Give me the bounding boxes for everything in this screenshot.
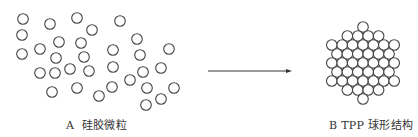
particle-circle: [65, 64, 76, 75]
packed-particle-circle: [342, 85, 353, 96]
particle-circle: [84, 66, 95, 77]
particle-circle: [132, 34, 143, 45]
particle-circle: [47, 87, 58, 98]
particle-circle: [164, 44, 175, 55]
particle-circle: [17, 30, 28, 41]
particle-circle: [156, 63, 167, 74]
particle-circle: [35, 68, 46, 79]
panel-b-caption: B TPP 球形结构: [329, 116, 413, 132]
particle-circle: [142, 83, 153, 94]
packed-particle-circle: [389, 76, 400, 87]
particle-circle: [87, 25, 98, 36]
particle-circle: [138, 67, 149, 78]
arrow-head-icon: [286, 69, 292, 73]
particle-circle: [72, 13, 83, 24]
tpp-spherical-cluster: [327, 22, 400, 105]
particle-circle: [115, 16, 126, 27]
transformation-arrow: [208, 69, 292, 73]
packed-particle-circle: [358, 94, 369, 105]
particle-circle: [135, 50, 146, 61]
silica-particles-scattered: [17, 13, 180, 111]
particle-circle: [51, 53, 62, 64]
particle-circle: [156, 94, 167, 105]
particle-circle: [94, 91, 105, 102]
particle-circle: [141, 100, 152, 111]
panel-a-caption: A 硅胶微粒: [66, 116, 127, 132]
particle-circle: [125, 75, 136, 86]
particle-circle: [76, 38, 87, 49]
particle-circle: [72, 83, 83, 94]
particle-circle: [35, 44, 46, 55]
particle-circle: [169, 83, 180, 94]
packed-particle-circle: [327, 76, 338, 87]
particle-circle: [45, 19, 56, 30]
packed-particle-circle: [373, 85, 384, 96]
particle-circle: [54, 37, 65, 48]
particle-circle: [108, 62, 119, 73]
particle-circle: [17, 49, 28, 60]
particle-circle: [50, 68, 61, 79]
particle-circle: [108, 45, 119, 56]
particle-circle: [18, 14, 29, 25]
particle-circle: [107, 82, 118, 93]
particle-circle: [79, 52, 90, 63]
